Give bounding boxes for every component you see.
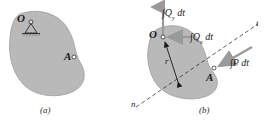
label-axis-n: n (131, 100, 136, 109)
label-position-vector-r: r (165, 57, 169, 66)
label-point-o-a: O (17, 13, 25, 24)
caption-panel-a: (a) (40, 106, 51, 115)
label-point-o-b: O (149, 29, 157, 40)
label-impulse-qx-main: ∫Q (190, 31, 200, 42)
label-impulse-qy-suffix: dt (175, 7, 185, 18)
point-a-marker-b (212, 66, 216, 70)
label-impulse-p: ∫P dt (230, 58, 249, 68)
label-impulse-qy: ∫Qy dt (162, 3, 185, 21)
point-o-marker-b (161, 35, 165, 39)
label-axis-t: t (256, 19, 259, 28)
label-point-a-a: A (64, 51, 71, 62)
label-impulse-qy-main: ∫Q (162, 7, 172, 18)
caption-panel-b: (b) (199, 106, 210, 115)
point-a-marker-a (72, 55, 76, 59)
label-point-a-b: A (206, 72, 213, 83)
label-impulse-qx: ∫Qx dt (190, 27, 213, 45)
label-impulse-qx-suffix: dt (203, 31, 213, 42)
